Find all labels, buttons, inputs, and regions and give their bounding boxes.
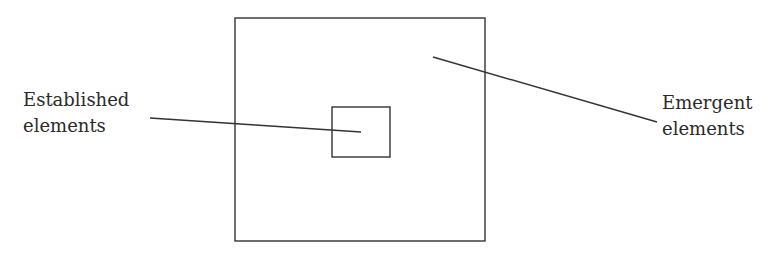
emergent-elements-box — [235, 18, 485, 241]
emergent-leader-line — [433, 57, 657, 122]
established-leader-line — [150, 118, 361, 132]
emergent-elements-label: Emergent elements — [662, 90, 752, 142]
established-elements-label: Established elements — [23, 87, 129, 139]
emergent-label-line2: elements — [662, 116, 752, 142]
emergent-label-line1: Emergent — [662, 90, 752, 116]
established-label-line2: elements — [23, 113, 129, 139]
established-label-line1: Established — [23, 87, 129, 113]
